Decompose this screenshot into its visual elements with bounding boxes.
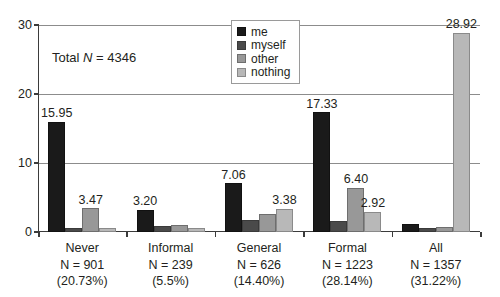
x-axis-label-group: NeverN = 901(20.73%)	[38, 240, 126, 290]
bar-group: 17.336.402.92	[303, 25, 391, 232]
bar[interactable]	[259, 214, 276, 232]
bar-slot	[171, 25, 188, 232]
category-name: Formal	[303, 240, 391, 257]
legend-label: me	[251, 26, 268, 38]
x-axis-tick	[126, 232, 128, 237]
legend-swatch-icon	[237, 27, 246, 36]
bar[interactable]	[171, 225, 188, 232]
bar[interactable]	[402, 224, 419, 232]
category-n: N = 239	[126, 257, 214, 274]
bar[interactable]	[453, 33, 470, 233]
category-pct: (5.5%)	[126, 273, 214, 290]
bar[interactable]	[137, 210, 154, 232]
legend-item[interactable]: other	[237, 52, 290, 66]
category-name: Informal	[126, 240, 214, 257]
bar-slot: 17.33	[313, 25, 330, 232]
annotation-prefix: Total	[52, 50, 83, 65]
legend-label: nothing	[251, 66, 290, 78]
x-axis-tick	[215, 232, 217, 237]
bar[interactable]	[82, 208, 99, 232]
bar-slot: 2.92	[364, 25, 381, 232]
legend-label: other	[251, 53, 278, 65]
legend: memyselfothernothing	[231, 20, 300, 84]
x-axis-label-group: AllN = 1357(31.22%)	[392, 240, 480, 290]
bar[interactable]	[242, 220, 259, 232]
x-axis-label-group: GeneralN = 626(14.40%)	[215, 240, 303, 290]
x-axis-tick	[480, 232, 482, 237]
bar-slot	[419, 25, 436, 232]
bar-slot	[154, 25, 171, 232]
category-n: N = 1223	[303, 257, 391, 274]
x-axis-ticks	[38, 232, 480, 237]
category-name: All	[392, 240, 480, 257]
category-pct: (20.73%)	[38, 273, 126, 290]
category-pct: (28.14%)	[303, 273, 391, 290]
category-n: N = 626	[215, 257, 303, 274]
bar-group: 28.92	[392, 25, 480, 232]
bar-slot	[330, 25, 347, 232]
legend-item[interactable]: nothing	[237, 66, 290, 80]
x-axis-tick	[392, 232, 394, 237]
bar-value-label: 2.92	[361, 197, 385, 210]
x-axis-tick	[38, 232, 40, 237]
bar[interactable]	[313, 112, 330, 232]
category-pct: (14.40%)	[215, 273, 303, 290]
category-n: N = 1357	[392, 257, 480, 274]
y-tick-label-30: 30	[8, 18, 32, 32]
category-name: General	[215, 240, 303, 257]
x-axis-label-group: InformalN = 239(5.5%)	[126, 240, 214, 290]
bar[interactable]	[276, 209, 293, 232]
bar-group: 3.20	[126, 25, 214, 232]
y-tick-label-10: 10	[8, 156, 32, 170]
category-name: Never	[38, 240, 126, 257]
legend-swatch-icon	[237, 54, 246, 63]
x-axis-tick	[303, 232, 305, 237]
bar-value-label: 3.38	[272, 194, 296, 207]
bar-slot	[188, 25, 205, 232]
legend-label: myself	[251, 39, 286, 51]
x-axis-labels: NeverN = 901(20.73%)InformalN = 239(5.5%…	[38, 240, 480, 290]
legend-swatch-icon	[237, 68, 246, 77]
bar-slot: 3.20	[137, 25, 154, 232]
bar-slot	[436, 25, 453, 232]
bar[interactable]	[48, 122, 65, 232]
total-n-annotation: Total N = 4346	[52, 50, 136, 65]
legend-swatch-icon	[237, 41, 246, 50]
bar-value-label: 28.92	[446, 18, 477, 31]
y-tick-label-20: 20	[8, 87, 32, 101]
category-pct: (31.22%)	[392, 273, 480, 290]
annotation-suffix: = 4346	[92, 50, 136, 65]
x-axis-label-group: FormalN = 1223(28.14%)	[303, 240, 391, 290]
bar[interactable]	[330, 221, 347, 232]
legend-item[interactable]: me	[237, 25, 290, 39]
bar-chart: 30 20 10 0 15.953.473.207.063.3817.336.4…	[0, 0, 500, 297]
y-tick-label-0: 0	[8, 225, 32, 239]
legend-item[interactable]: myself	[237, 39, 290, 53]
bar[interactable]	[364, 212, 381, 232]
bar-slot	[402, 25, 419, 232]
bar-slot: 28.92	[453, 25, 470, 232]
bar[interactable]	[225, 183, 242, 232]
category-n: N = 901	[38, 257, 126, 274]
